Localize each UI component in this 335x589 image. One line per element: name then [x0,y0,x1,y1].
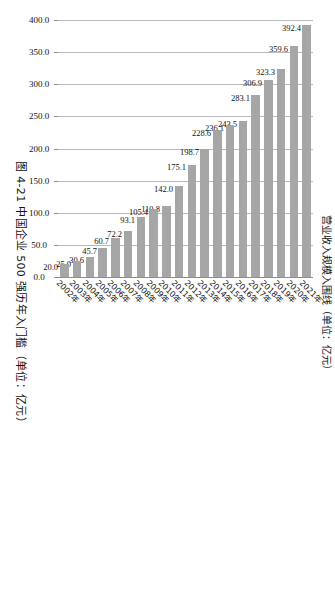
bar-row: 392.4 [300,20,313,277]
bar[interactable] [213,130,222,277]
bar-row: 20.0 [58,20,71,277]
bar[interactable] [60,264,69,277]
axis-tick-mark [54,213,58,214]
bar-value-label: 20.0 [44,262,59,272]
bar-row: 142.0 [173,20,186,277]
bar-row: 228.6 [211,20,224,277]
bar-row: 243.5 [237,20,250,277]
bar-row: 60.7 [109,20,122,277]
bar-row: 110.8 [160,20,173,277]
bar-row: 175.1 [186,20,199,277]
bar-row: 306.9 [262,20,275,277]
figure-caption: 图 4-21 中国企业 500 强历年入门槛（单位：亿元） [14,0,30,589]
axis-tick-mark [54,20,58,21]
bar-row: 359.6 [288,20,301,277]
bar[interactable] [226,125,235,277]
figure-container: 营业收入规模入围线（单位：亿元） 392.4359.6323.3306.9283… [0,0,335,589]
bar[interactable] [239,121,248,277]
bar-row: 236.1 [224,20,237,277]
bar[interactable] [149,209,158,277]
bar[interactable] [188,165,197,278]
axis-zero-line [58,277,313,278]
bar[interactable] [277,69,286,277]
axis-tick-mark [54,181,58,182]
bar-row: 25.0 [71,20,84,277]
bar[interactable] [162,206,171,277]
bar-row: 105.4 [147,20,160,277]
bar[interactable] [264,80,273,277]
bar[interactable] [175,186,184,277]
bar[interactable] [86,257,95,277]
axis-tick-mark [54,149,58,150]
bar-row: 93.1 [135,20,148,277]
bar[interactable] [124,231,133,277]
axis-tick-mark [54,245,58,246]
bar[interactable] [251,95,260,277]
axis-tick-mark [54,277,58,278]
bar[interactable] [98,248,107,277]
bar[interactable] [290,46,299,277]
plot-area: 392.4359.6323.3306.9283.1243.5236.1228.6… [58,20,313,277]
bar-row: 72.2 [122,20,135,277]
bar-row: 45.7 [96,20,109,277]
bar-row: 198.7 [198,20,211,277]
bar-row: 30.6 [84,20,97,277]
bar-row: 283.1 [249,20,262,277]
bar[interactable] [200,149,209,277]
axis-tick-mark [54,84,58,85]
axis-tick-mark [54,52,58,53]
axis-tick-mark [54,116,58,117]
bar[interactable] [73,261,82,277]
bar[interactable] [302,25,311,277]
bar[interactable] [137,217,146,277]
bar[interactable] [111,238,120,277]
bar-row: 323.3 [275,20,288,277]
